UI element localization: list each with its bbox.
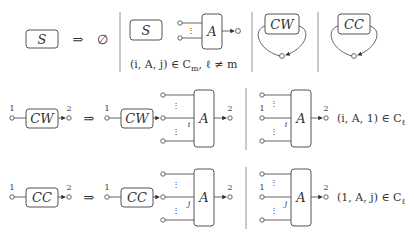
vdots: ⋮	[172, 101, 180, 110]
port-index-label: j	[186, 199, 191, 208]
input-port	[10, 195, 14, 199]
port	[260, 139, 264, 143]
input-port	[105, 116, 109, 120]
port-label-2: 2	[323, 183, 328, 192]
a-box-label: A	[295, 111, 305, 126]
port-label-1: 1	[259, 104, 264, 113]
implies-arrow: ⇒	[84, 190, 95, 205]
panel-cc-condition: 1 ⋮ ⋮ j A 2 (1, A, j) ∈ Cℓ	[259, 169, 405, 226]
port-label-2: 2	[323, 104, 328, 113]
a-box-label: A	[295, 190, 305, 205]
port-label-1: 1	[259, 183, 264, 192]
panel-s-with-a: S ⋮ A (i, A, j) ∈ Cm, ℓ ≠ m	[130, 14, 240, 73]
loop-port	[352, 54, 357, 59]
port	[161, 218, 165, 222]
input-port	[10, 116, 14, 120]
port-index-label: i	[285, 120, 288, 129]
output-port	[228, 195, 232, 199]
port	[161, 93, 165, 97]
condition-text: (1, A, j) ∈ Cℓ	[337, 191, 405, 206]
rewrite-rules-diagram: S ⇒ ∅ S ⋮ A (i, A, j) ∈ Cm, ℓ ≠ m CW CC …	[0, 0, 414, 237]
vdots: ⋮	[270, 178, 278, 187]
a-box-label: A	[198, 190, 208, 205]
cw-box-label: CW	[30, 111, 55, 126]
empty-set: ∅	[97, 32, 108, 47]
a-box-label: A	[198, 111, 208, 126]
port	[260, 195, 264, 199]
panel-cw-condition: 1 ⋮ ⋮ i A 2 (i, A, 1) ∈ Cℓ	[259, 90, 405, 147]
cw-box-label: CW	[125, 111, 150, 126]
output-port	[67, 195, 71, 199]
vdots: ⋮	[270, 206, 278, 215]
output-port	[324, 195, 328, 199]
panel-cc-loop: CC	[331, 14, 377, 58]
port-label-2: 2	[66, 183, 71, 192]
vdots: ⋮	[187, 26, 195, 35]
port	[260, 116, 264, 120]
cc-box-label: CC	[344, 17, 364, 32]
port	[260, 172, 264, 176]
cc-box-label: CC	[127, 190, 147, 205]
rule-s-to-empty: S ⇒ ∅	[26, 30, 108, 48]
port	[178, 21, 182, 25]
rule-cc: 1 CC 2 ⇒ 1 CC ⋮ ⋮ j A 2	[9, 169, 232, 226]
port	[178, 36, 182, 40]
vdots: ⋮	[172, 180, 180, 189]
a-box-label: A	[206, 24, 216, 39]
implies-arrow: ⇒	[73, 32, 84, 47]
condition-text: (i, A, j) ∈ Cm, ℓ ≠ m	[130, 58, 238, 73]
port-label-1: 1	[104, 183, 109, 192]
implies-arrow: ⇒	[84, 111, 95, 126]
port	[161, 139, 165, 143]
port	[260, 218, 264, 222]
loop-port	[280, 54, 285, 59]
port-index-label: j	[283, 199, 288, 208]
port-label-1: 1	[9, 104, 14, 113]
vdots: ⋮	[270, 99, 278, 108]
output-port	[228, 116, 232, 120]
output-port	[236, 29, 241, 34]
vdots: ⋮	[172, 127, 180, 136]
port-label-1: 1	[9, 183, 14, 192]
port-label-2: 2	[227, 183, 232, 192]
cw-box-label: CW	[270, 17, 295, 32]
vdots: ⋮	[270, 127, 278, 136]
port	[260, 93, 264, 97]
output-port	[67, 116, 71, 120]
input-port	[105, 195, 109, 199]
vdots: ⋮	[172, 206, 180, 215]
condition-text: (i, A, 1) ∈ Cℓ	[337, 112, 406, 127]
port-label-2: 2	[227, 104, 232, 113]
output-port	[324, 116, 328, 120]
panel-cw-loop: CW	[258, 14, 306, 58]
junction-port	[161, 116, 165, 120]
port-index-label: i	[188, 120, 191, 129]
cc-box-label: CC	[32, 190, 52, 205]
s-box-label: S	[38, 32, 47, 47]
rule-cw: 1 CW 2 ⇒ 1 CW ⋮ ⋮ i A 2	[9, 90, 232, 147]
port-label-1: 1	[104, 104, 109, 113]
port-label-2: 2	[66, 104, 71, 113]
s-box-label: S	[142, 23, 151, 38]
port	[161, 172, 165, 176]
junction-port	[161, 195, 165, 199]
